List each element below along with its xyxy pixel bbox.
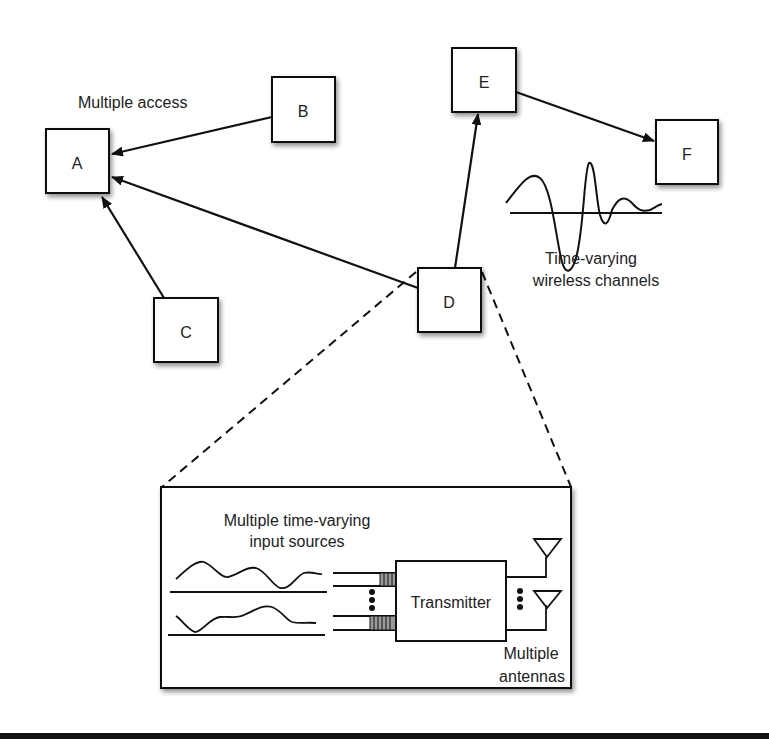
inset-title-line2: input sources [249, 533, 344, 550]
zoom-lines [162, 272, 571, 487]
edge-d-to-a [112, 177, 418, 288]
node-a-label: A [72, 155, 83, 172]
edge-b-to-a [112, 117, 272, 154]
node-d-label: D [443, 294, 455, 311]
bottom-border-bar [0, 733, 769, 739]
node-b-label: B [298, 103, 309, 120]
input-ellipsis-dots [369, 589, 375, 611]
edge-c-to-a [102, 197, 164, 298]
channel-label-line2: wireless channels [532, 272, 659, 289]
node-f-label: F [682, 146, 692, 163]
antennas-label-line1: Multiple [503, 645, 558, 662]
edge-e-to-f [516, 92, 654, 141]
network-diagram: A B C D E F Multiple access Time-varying… [0, 0, 769, 739]
multiple-access-label: Multiple access [78, 94, 187, 111]
node-c-label: C [180, 324, 192, 341]
node-e-label: E [479, 74, 490, 91]
transmitter-label: Transmitter [411, 594, 492, 611]
inset-title-line1: Multiple time-varying [224, 512, 371, 529]
antenna-ellipsis-dots [517, 588, 523, 610]
edges [102, 92, 654, 298]
antennas-label-line2: antennas [499, 668, 565, 685]
channel-label-line1: Time-varying [545, 250, 637, 267]
edge-d-to-e [455, 114, 478, 268]
